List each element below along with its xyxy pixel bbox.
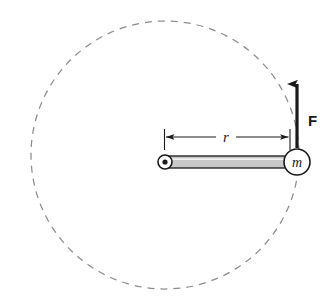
rigid-rod xyxy=(168,156,287,168)
radius-label: r xyxy=(223,129,229,145)
circular-motion-figure: m F r xyxy=(0,0,329,306)
force-label: F xyxy=(308,112,317,129)
physics-diagram-canvas: m F r xyxy=(0,0,329,306)
mass-label: m xyxy=(292,155,302,170)
pivot-center-dot xyxy=(162,159,167,164)
